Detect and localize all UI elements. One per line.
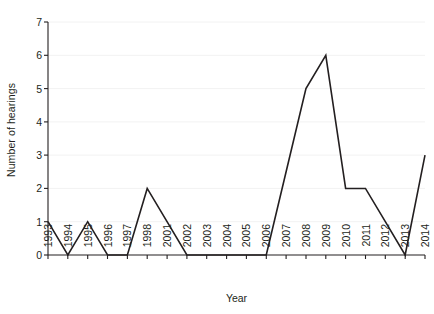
x-tick-label-text: 2002: [181, 224, 193, 258]
x-tick-label-text: 1995: [82, 224, 94, 258]
chart-figure: Number of hearings 0 1 2 3 4 5 6 7: [0, 0, 434, 314]
x-axis-title: Year: [48, 292, 425, 304]
x-tick-label-text: 2004: [221, 224, 233, 258]
x-tick-label-text: 1998: [141, 224, 153, 258]
x-tick-label-text: 2012: [379, 224, 391, 258]
x-tick-label-text: 1996: [102, 224, 114, 258]
x-tick-label-text: 2001: [161, 224, 173, 258]
x-tick-label-text: 2011: [360, 224, 372, 258]
x-tick-label-text: 2006: [260, 224, 272, 258]
x-tick-label-text: 2014: [419, 224, 431, 258]
x-tick-label-text: 1994: [62, 224, 74, 258]
x-tick-label-text: 1997: [121, 224, 133, 258]
x-tick-label-text: 2013: [399, 224, 411, 258]
x-tick-label-text: 2009: [320, 224, 332, 258]
x-tick-label-text: 2007: [280, 224, 292, 258]
x-tick-label-text: 1993: [42, 224, 54, 258]
x-tick-label-text: 2008: [300, 224, 312, 258]
x-tick-label-text: 2003: [201, 224, 213, 258]
x-tick-label: 2014: [415, 258, 434, 270]
x-axis-tick-labels: 1993 1994 1995 1996 1997 1998 2001 2002 …: [0, 0, 434, 314]
x-tick-label-text: 2005: [240, 224, 252, 258]
x-tick-label-text: 2010: [340, 224, 352, 258]
